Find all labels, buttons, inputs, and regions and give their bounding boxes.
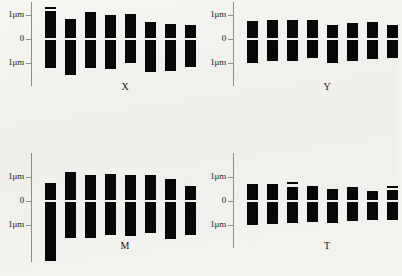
y-tick-1um-top-label: 1μm: [195, 10, 226, 19]
chromosome-long-arm: [367, 202, 378, 220]
chromosome-long-arm: [105, 202, 116, 235]
chromosome-short-arm: [45, 11, 56, 38]
chromosome-t-2: [267, 138, 278, 276]
chromosome-long-arm: [85, 40, 96, 68]
chromosome-t-6: [347, 138, 358, 276]
chromosome-long-arm: [347, 40, 358, 61]
chromosome-satellite: [287, 182, 298, 184]
y-tick-1um-top: [26, 15, 31, 16]
y-axis-line: [31, 153, 32, 262]
chromosome-long-arm: [287, 40, 298, 61]
chromosome-m-3: [85, 138, 96, 276]
y-tick-zero: [26, 201, 31, 202]
y-tick-1um-top-label: 1μm: [0, 172, 24, 181]
chromosome-t-7: [367, 138, 378, 276]
chromosome-y-4: [307, 0, 318, 138]
chromosome-long-arm: [125, 202, 136, 236]
chromosome-long-arm: [45, 202, 56, 261]
y-tick-1um-top: [228, 15, 233, 16]
panel-label-y: Y: [247, 82, 402, 92]
chromosome-long-arm: [85, 202, 96, 238]
panel-label-t: T: [247, 241, 402, 251]
chromosome-short-arm: [125, 175, 136, 200]
chromosome-m-1: [45, 138, 56, 276]
y-tick-zero-label: 0: [195, 196, 226, 205]
chromosome-short-arm: [125, 14, 136, 38]
chromosome-y-7: [367, 0, 378, 138]
chromosome-short-arm: [387, 25, 398, 38]
chromosome-short-arm: [287, 187, 298, 200]
y-axis-line: [233, 2, 234, 86]
panel-x: 1μm01μmX: [0, 0, 197, 138]
chromosome-long-arm: [307, 202, 318, 222]
chromosome-long-arm: [367, 40, 378, 59]
chromosome-t-3: [287, 138, 298, 276]
chromosome-y-1: [247, 0, 258, 138]
panel-m: 1μm01μmM: [0, 138, 197, 276]
chromosome-long-arm: [165, 40, 176, 71]
y-axis-line: [31, 2, 32, 86]
y-axis-line: [233, 153, 234, 248]
chromosome-long-arm: [267, 40, 278, 61]
y-tick-1um-top-label: 1μm: [0, 10, 24, 19]
y-tick-1um-top-label: 1μm: [195, 172, 226, 181]
y-tick-zero-label: 0: [0, 196, 24, 205]
chromosome-short-arm: [85, 12, 96, 38]
chromosome-m-5: [125, 138, 136, 276]
chromosome-long-arm: [287, 202, 298, 223]
chromosome-y-8: [387, 0, 398, 138]
panel-label-x: X: [45, 82, 205, 92]
chromosome-short-arm: [307, 186, 318, 200]
chromosome-x-8: [185, 0, 196, 138]
chromosome-short-arm: [327, 189, 338, 200]
chromosome-short-arm: [367, 22, 378, 38]
chromosome-short-arm: [65, 19, 76, 38]
chromosome-long-arm: [327, 202, 338, 223]
panel-t: 1μm01μmT: [197, 138, 397, 276]
chromosome-short-arm: [145, 22, 156, 38]
y-tick-1um-bottom: [26, 63, 31, 64]
chromosome-long-arm: [247, 40, 258, 63]
chromosome-short-arm: [347, 23, 358, 38]
chromosome-short-arm: [347, 187, 358, 200]
chromosome-t-8: [387, 138, 398, 276]
chromosome-x-5: [125, 0, 136, 138]
chromosome-m-6: [145, 138, 156, 276]
chromosome-x-6: [145, 0, 156, 138]
chromosome-short-arm: [145, 175, 156, 200]
y-tick-zero: [228, 39, 233, 40]
chromosome-short-arm: [165, 24, 176, 38]
panel-label-m: M: [45, 241, 205, 251]
y-tick-1um-bottom: [228, 63, 233, 64]
y-tick-1um-bottom-label: 1μm: [195, 58, 226, 67]
chromosome-long-arm: [165, 202, 176, 239]
y-tick-zero-label: 0: [195, 34, 226, 43]
chromosome-short-arm: [387, 190, 398, 200]
chromosome-y-2: [267, 0, 278, 138]
chromosome-short-arm: [65, 172, 76, 200]
chromosome-long-arm: [125, 40, 136, 63]
chromosome-m-4: [105, 138, 116, 276]
chromosome-long-arm: [247, 202, 258, 225]
y-tick-1um-bottom-label: 1μm: [0, 58, 24, 67]
chromosome-long-arm: [307, 40, 318, 58]
chromosome-long-arm: [387, 40, 398, 58]
y-tick-zero: [228, 201, 233, 202]
y-tick-1um-bottom: [228, 225, 233, 226]
chromosome-long-arm: [145, 40, 156, 72]
y-tick-1um-top: [26, 177, 31, 178]
chromosome-long-arm: [347, 202, 358, 221]
y-tick-1um-bottom-label: 1μm: [0, 220, 24, 229]
chromosome-satellite: [387, 186, 398, 188]
y-tick-zero: [26, 39, 31, 40]
y-tick-1um-top: [228, 177, 233, 178]
chromosome-y-3: [287, 0, 298, 138]
chromosome-long-arm: [185, 202, 196, 235]
chromosome-x-1: [45, 0, 56, 138]
chromosome-short-arm: [105, 174, 116, 200]
chromosome-m-7: [165, 138, 176, 276]
chromosome-long-arm: [65, 202, 76, 238]
chromosome-satellite: [45, 7, 56, 9]
chromosome-short-arm: [247, 184, 258, 200]
